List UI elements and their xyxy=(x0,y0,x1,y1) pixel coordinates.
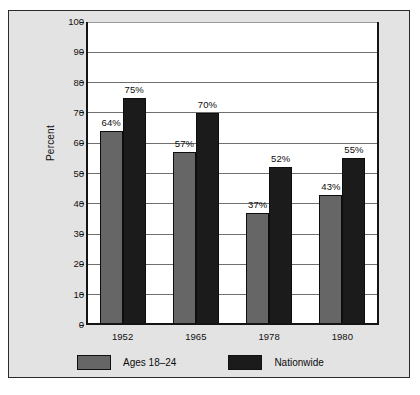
plot-area: 64%75%57%70%37%52%43%55% xyxy=(86,22,379,325)
legend-swatch-ages-18-24 xyxy=(77,355,111,370)
legend-entry-ages-18-24: Ages 18–24 xyxy=(77,355,176,370)
bar-value-label: 55% xyxy=(339,145,369,155)
bar xyxy=(173,152,196,325)
bar-value-label: 57% xyxy=(169,139,199,149)
y-axis: 0102030405060708090100 xyxy=(49,22,84,325)
chart-figure: 0102030405060708090100 Percent 64%75%57%… xyxy=(8,10,410,378)
bar xyxy=(246,213,269,325)
y-tick-mark xyxy=(80,143,84,144)
bar-value-label: 70% xyxy=(192,100,222,110)
y-tick-mark xyxy=(80,203,84,204)
y-tick-mark xyxy=(80,173,84,174)
bars-layer: 64%75%57%70%37%52%43%55% xyxy=(86,22,379,325)
x-tick-label: 1980 xyxy=(332,331,353,342)
legend: Ages 18–24 Nationwide xyxy=(77,352,324,372)
legend-label-nationwide: Nationwide xyxy=(274,357,323,368)
axis-bottom xyxy=(86,323,379,325)
bar-value-label: 37% xyxy=(243,200,273,210)
axis-right xyxy=(377,22,379,325)
legend-label-ages-18-24: Ages 18–24 xyxy=(123,357,176,368)
bar xyxy=(100,131,123,325)
y-tick-mark xyxy=(80,234,84,235)
bar-value-label: 75% xyxy=(119,85,149,95)
legend-swatch-nationwide xyxy=(228,355,262,370)
x-tick-label: 1978 xyxy=(259,331,280,342)
x-tick-label: 1965 xyxy=(185,331,206,342)
bar xyxy=(342,158,365,325)
y-tick-mark xyxy=(80,294,84,295)
bar-value-label: 52% xyxy=(266,154,296,164)
legend-entry-nationwide: Nationwide xyxy=(228,355,323,370)
bar xyxy=(319,195,342,325)
bar xyxy=(196,113,219,325)
axis-top xyxy=(86,22,379,23)
x-axis: 1952196519781980 xyxy=(86,327,379,345)
bar-value-label: 64% xyxy=(96,118,126,128)
y-tick-mark xyxy=(80,112,84,113)
axis-left xyxy=(86,22,88,325)
y-tick-mark xyxy=(80,22,84,23)
y-tick-mark xyxy=(80,52,84,53)
y-tick-mark xyxy=(80,82,84,83)
bar xyxy=(269,167,292,325)
y-axis-label: Percent xyxy=(45,125,56,161)
x-tick-label: 1952 xyxy=(112,331,133,342)
bar xyxy=(123,98,146,325)
bar-value-label: 43% xyxy=(316,182,346,192)
y-tick-mark xyxy=(80,325,84,326)
y-tick-mark xyxy=(80,264,84,265)
